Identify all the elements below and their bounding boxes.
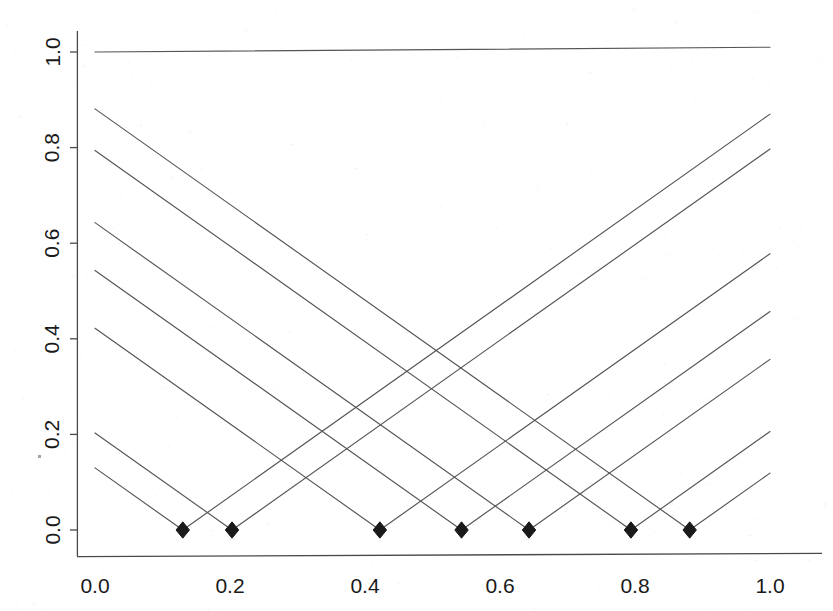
x-tick-label-1: 0.2 bbox=[215, 574, 244, 597]
x-tick-label-2: 0.4 bbox=[350, 574, 380, 597]
data-point-marker-0 bbox=[176, 522, 189, 538]
series-line-tent-0.13 bbox=[95, 114, 770, 530]
y-tick-label-5: 1.0 bbox=[41, 37, 64, 66]
series-line-constant-one bbox=[95, 47, 770, 52]
x-tick-label-0: 0.0 bbox=[80, 574, 109, 597]
series-line-tent-0.643 bbox=[95, 223, 770, 530]
chart-svg: 0.00.20.40.60.81.00.00.20.40.60.81.0 bbox=[0, 0, 833, 611]
y-tick-label-0: 0.0 bbox=[41, 515, 64, 544]
data-point-marker-1 bbox=[225, 522, 238, 538]
series-line-tent-0.794 bbox=[95, 150, 770, 530]
data-point-marker-4 bbox=[522, 522, 535, 538]
y-tick-label-1: 0.2 bbox=[41, 420, 64, 449]
tick-label-layer: 0.00.20.40.60.81.00.00.20.40.60.81.0 bbox=[41, 37, 785, 596]
x-tick-label-5: 1.0 bbox=[755, 574, 784, 597]
data-point-marker-6 bbox=[683, 522, 696, 538]
marker-layer bbox=[176, 522, 696, 538]
y-tick-label-2: 0.4 bbox=[41, 324, 64, 354]
x-axis-line bbox=[77, 553, 822, 556]
series-line-tent-0.881 bbox=[95, 109, 770, 530]
axis-layer bbox=[70, 31, 822, 557]
series-line-tent-0.422 bbox=[95, 254, 770, 530]
x-tick-label-3: 0.6 bbox=[485, 574, 514, 597]
figure-canvas: 0.00.20.40.60.81.00.00.20.40.60.81.0 bbox=[0, 0, 833, 611]
data-point-marker-3 bbox=[455, 522, 468, 538]
series-layer bbox=[95, 47, 770, 530]
data-point-marker-2 bbox=[373, 522, 386, 538]
y-tick-label-3: 0.6 bbox=[41, 229, 64, 258]
x-tick-label-4: 0.8 bbox=[620, 574, 649, 597]
series-line-tent-0.203 bbox=[95, 149, 770, 530]
y-tick-label-4: 0.8 bbox=[41, 133, 64, 162]
data-point-marker-5 bbox=[624, 522, 637, 538]
